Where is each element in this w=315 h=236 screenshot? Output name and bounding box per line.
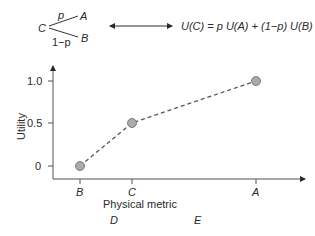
utility-curve [80, 81, 256, 166]
ytick-0: 0 [35, 160, 41, 172]
label-d: D [110, 214, 118, 226]
y-axis-label: Utility [15, 113, 27, 140]
point-c [128, 119, 137, 128]
lottery-root-label: C [38, 22, 46, 34]
upper-prob-label: p [57, 9, 64, 21]
utility-equation: U(C) = p U(A) + (1−p) U(B) [181, 20, 313, 32]
label-e: E [194, 214, 202, 226]
lower-outcome-label: B [81, 32, 88, 44]
ytick-1-0: 1.0 [27, 75, 42, 87]
lower-prob-label: 1−p [52, 36, 71, 48]
xtick-b: B [76, 186, 83, 198]
ytick-0-5: 0.5 [27, 117, 42, 129]
upper-outcome-label: A [79, 10, 87, 22]
diagram-canvas: C p A 1−p B U(C) = p U(A) + (1−p) U(B) 1… [0, 0, 315, 236]
xtick-c: C [128, 186, 136, 198]
lottery-tree: C p A 1−p B [38, 9, 88, 48]
xtick-a: A [251, 186, 259, 198]
x-axis-label: Physical metric [103, 198, 177, 210]
chart-axes: 1.0 0.5 0 B C A Utility Physical metric [15, 66, 305, 210]
point-b [76, 162, 85, 171]
point-a [252, 77, 261, 86]
